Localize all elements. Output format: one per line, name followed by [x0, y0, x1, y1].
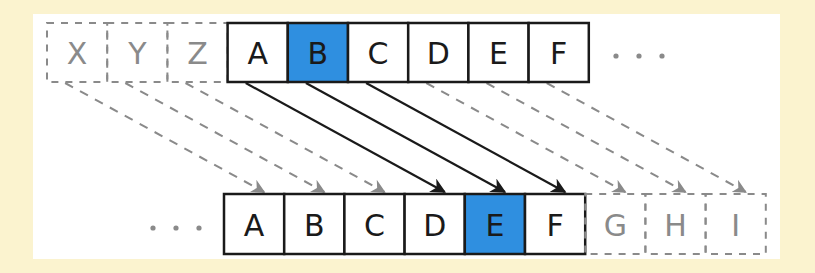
bottom-cell-label: G	[604, 208, 627, 243]
bottom-cell-i: I	[706, 194, 766, 254]
dashed-arrow-x-to-a	[65, 83, 264, 192]
top-cell-label: Z	[187, 36, 208, 71]
top-cell-label: Y	[127, 36, 147, 71]
top-cell-label: E	[489, 36, 508, 71]
top-cell-x: X	[47, 23, 107, 82]
top-cell-z: Z	[167, 23, 227, 82]
bottom-cell-f: F	[525, 194, 585, 254]
top-cell-e: E	[468, 23, 528, 82]
bottom-cell-label: F	[546, 208, 563, 243]
bottom-cell-label: C	[364, 208, 385, 243]
dashed-arrow-f-to-i	[547, 83, 746, 192]
bottom-cell-label: A	[244, 208, 265, 243]
dashed-arrow-z-to-c	[186, 83, 385, 192]
bottom-cell-e: E	[465, 194, 525, 254]
top-cell-a: A	[228, 23, 288, 82]
top-ellipsis	[613, 53, 664, 58]
bottom-cell-label: I	[731, 208, 740, 243]
bottom-cell-c: C	[344, 194, 404, 254]
top-cell-y: Y	[107, 23, 167, 82]
solid-arrow-a-to-d	[246, 83, 445, 192]
arrows	[65, 83, 746, 192]
bottom-cell-label: H	[664, 208, 687, 243]
top-cell-label: A	[247, 36, 268, 71]
bottom-cell-a: A	[224, 194, 284, 254]
top-cell-label: B	[308, 36, 329, 71]
solid-arrow-c-to-f	[366, 83, 565, 192]
dashed-arrow-e-to-h	[487, 83, 686, 192]
bottom-cell-g: G	[585, 194, 645, 254]
top-cell-b: B	[288, 23, 348, 82]
top-cell-label: F	[550, 36, 567, 71]
top-row: XYZABCDEF	[47, 23, 665, 82]
top-cell-d: D	[408, 23, 468, 82]
bottom-cell-label: B	[304, 208, 325, 243]
top-cell-label: X	[67, 36, 88, 71]
dashed-arrow-d-to-g	[426, 83, 625, 192]
top-cell-c: C	[348, 23, 408, 82]
bottom-cell-label: E	[485, 208, 504, 243]
top-cell-label: D	[427, 36, 450, 71]
solid-arrow-b-to-e	[306, 83, 505, 192]
bottom-cell-h: H	[645, 194, 705, 254]
bottom-cell-b: B	[284, 194, 344, 254]
bottom-ellipsis	[150, 225, 201, 230]
bottom-cell-label: D	[423, 208, 446, 243]
top-cell-label: C	[368, 36, 389, 71]
dashed-arrow-y-to-b	[125, 83, 324, 192]
bottom-row: ABCDEFGHI	[150, 194, 765, 254]
shift-diagram: XYZABCDEF ABCDEFGHI	[0, 0, 815, 273]
top-cell-f: F	[529, 23, 589, 82]
bottom-cell-d: D	[405, 194, 465, 254]
